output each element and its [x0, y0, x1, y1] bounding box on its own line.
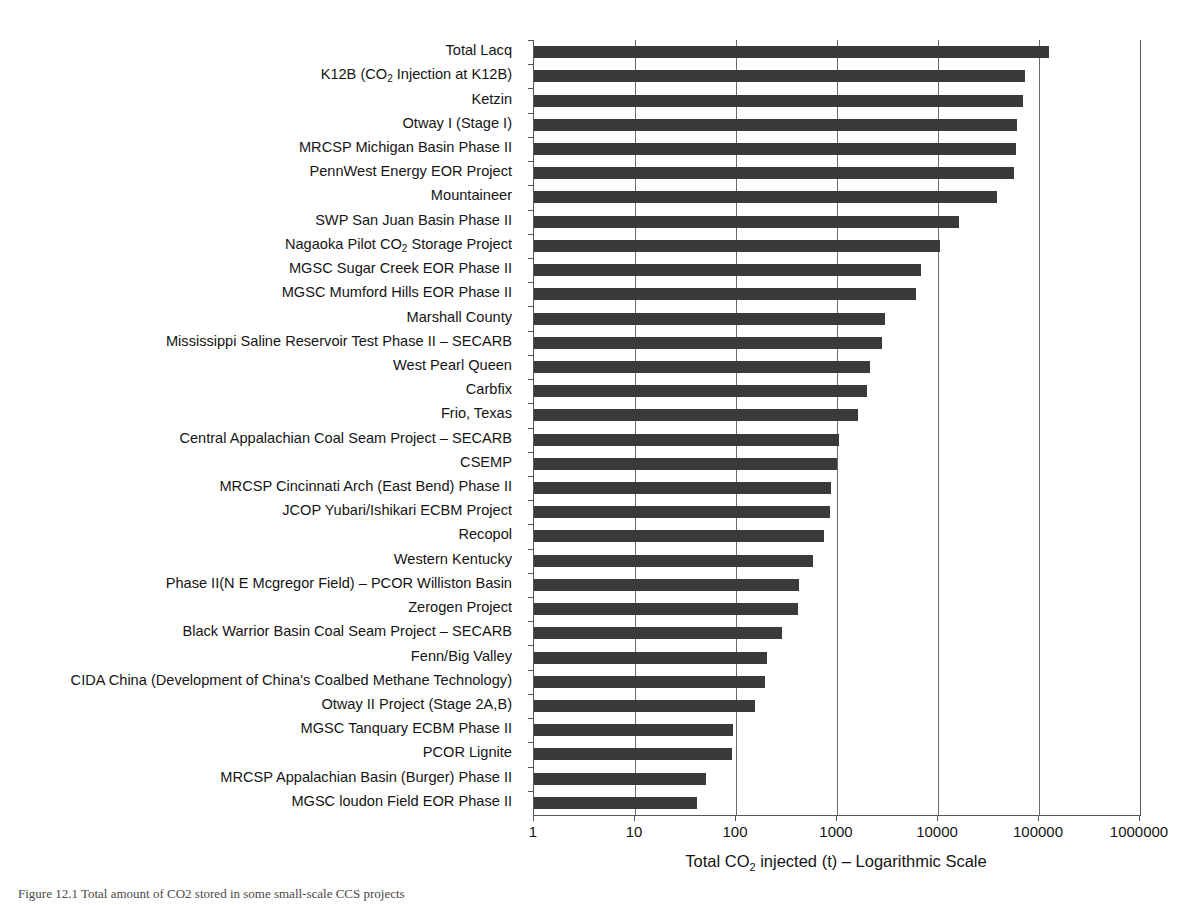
bar[interactable] — [534, 288, 916, 300]
bar[interactable] — [534, 119, 1017, 131]
gridline — [938, 40, 939, 815]
plot-area — [533, 40, 1141, 816]
category-label: MRCSP Cincinnati Arch (East Bend) Phase … — [219, 479, 512, 494]
bar[interactable] — [534, 773, 706, 785]
y-axis-tick — [528, 137, 534, 138]
y-axis-tick — [528, 40, 534, 41]
bar[interactable] — [534, 530, 824, 542]
y-axis-tick — [528, 500, 534, 501]
category-label: PennWest Energy EOR Project — [309, 164, 512, 179]
category-label: Mountaineer — [431, 188, 512, 203]
y-axis-tick — [528, 379, 534, 380]
x-axis-tick — [634, 815, 635, 821]
category-label: Recopol — [458, 527, 512, 542]
category-label: Frio, Texas — [441, 406, 512, 421]
category-label: SWP San Juan Basin Phase II — [315, 213, 512, 228]
bar[interactable] — [534, 240, 940, 252]
subscript-2: 2 — [749, 861, 755, 873]
y-axis-tick — [528, 791, 534, 792]
category-label: CSEMP — [460, 455, 512, 470]
category-axis-labels: Total LacqK12B (CO2 Injection at K12B)Ke… — [0, 40, 520, 815]
bar[interactable] — [534, 652, 767, 664]
y-axis-tick — [528, 161, 534, 162]
category-label: MGSC Sugar Creek EOR Phase II — [289, 261, 512, 276]
category-label: West Pearl Queen — [393, 358, 512, 373]
x-axis-tick-label: 1000 — [819, 823, 852, 840]
category-label: Carbfix — [466, 382, 512, 397]
y-axis-tick — [528, 258, 534, 259]
y-axis-tick — [528, 306, 534, 307]
category-label: CIDA China (Development of China's Coalb… — [71, 673, 512, 688]
y-axis-tick — [528, 234, 534, 235]
y-axis-tick — [528, 113, 534, 114]
y-axis-tick — [528, 621, 534, 622]
bar[interactable] — [534, 797, 697, 809]
category-label: Black Warrior Basin Coal Seam Project – … — [182, 624, 512, 639]
x-axis-tick — [533, 815, 534, 821]
x-axis-tick — [836, 815, 837, 821]
y-axis-tick — [528, 573, 534, 574]
x-axis-tick-label: 100 — [722, 823, 747, 840]
y-axis-tick — [528, 331, 534, 332]
x-axis-tick-label: 1 — [529, 823, 537, 840]
bar[interactable] — [534, 627, 782, 639]
bar[interactable] — [534, 143, 1016, 155]
bar[interactable] — [534, 70, 1025, 82]
figure-container: Total LacqK12B (CO2 Injection at K12B)Ke… — [0, 0, 1200, 905]
x-axis-tick — [937, 815, 938, 821]
bar[interactable] — [534, 676, 765, 688]
category-label: Otway I (Stage I) — [403, 116, 513, 131]
bar[interactable] — [534, 191, 997, 203]
y-axis-tick — [528, 403, 534, 404]
bar[interactable] — [534, 700, 755, 712]
y-axis-tick — [528, 64, 534, 65]
bar-chart: Total LacqK12B (CO2 Injection at K12B)Ke… — [0, 0, 1200, 905]
gridline — [736, 40, 737, 815]
category-label: MGSC Mumford Hills EOR Phase II — [282, 285, 512, 300]
category-label: Marshall County — [407, 310, 512, 325]
gridline — [635, 40, 636, 815]
category-label: Mississippi Saline Reservoir Test Phase … — [166, 334, 512, 349]
bar[interactable] — [534, 555, 813, 567]
y-axis-tick — [528, 355, 534, 356]
bar[interactable] — [534, 46, 1049, 58]
bar[interactable] — [534, 216, 959, 228]
bar[interactable] — [534, 724, 733, 736]
y-axis-tick — [528, 210, 534, 211]
bar[interactable] — [534, 337, 882, 349]
bar[interactable] — [534, 603, 798, 615]
bar[interactable] — [534, 313, 885, 325]
category-label: Ketzin — [471, 92, 512, 107]
gridline — [837, 40, 838, 815]
bar[interactable] — [534, 458, 837, 470]
bar[interactable] — [534, 579, 799, 591]
y-axis-tick — [528, 670, 534, 671]
y-axis-tick — [528, 452, 534, 453]
y-axis-tick — [528, 428, 534, 429]
bar[interactable] — [534, 95, 1023, 107]
bar[interactable] — [534, 748, 732, 760]
gridline — [1039, 40, 1040, 815]
figure-caption: Figure 12.1 Total amount of CO2 stored i… — [18, 886, 405, 902]
x-axis-tick-label: 1000000 — [1110, 823, 1168, 840]
x-axis-tick-label: 10000 — [916, 823, 958, 840]
y-axis-tick — [528, 645, 534, 646]
bar[interactable] — [534, 361, 870, 373]
bar[interactable] — [534, 167, 1014, 179]
category-label: MGSC Tanquary ECBM Phase II — [301, 721, 512, 736]
bar[interactable] — [534, 506, 830, 518]
bar[interactable] — [534, 434, 839, 446]
category-label: Central Appalachian Coal Seam Project – … — [179, 431, 512, 446]
y-axis-tick — [528, 742, 534, 743]
y-axis-tick — [528, 524, 534, 525]
x-axis-tick-label: 100000 — [1013, 823, 1063, 840]
bar[interactable] — [534, 385, 867, 397]
category-label: Western Kentucky — [394, 552, 512, 567]
category-label: JCOP Yubari/Ishikari ECBM Project — [282, 503, 512, 518]
bar[interactable] — [534, 409, 858, 421]
x-axis-title: Total CO2 injected (t) – Logarithmic Sca… — [533, 852, 1139, 871]
bar[interactable] — [534, 482, 831, 494]
y-axis-tick — [528, 549, 534, 550]
bar[interactable] — [534, 264, 921, 276]
y-axis-tick — [528, 767, 534, 768]
